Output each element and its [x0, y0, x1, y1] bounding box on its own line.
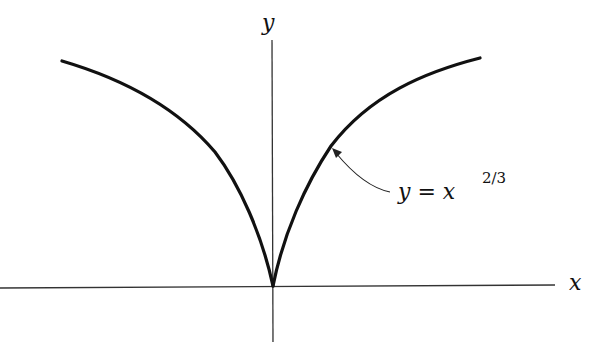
arrowhead-icon [332, 148, 342, 158]
curve-right-branch [273, 58, 480, 286]
y-axis [272, 40, 273, 342]
graph-canvas: y x y = x 2/3 [0, 0, 590, 350]
equation-label: y = x [397, 179, 456, 204]
annotation-arrow-line [336, 153, 390, 192]
curve-left-branch [62, 61, 273, 286]
x-axis [0, 285, 555, 288]
equation-exponent: 2/3 [482, 169, 506, 187]
y-axis-label: y [261, 10, 275, 35]
x-axis-label: x [569, 270, 582, 295]
